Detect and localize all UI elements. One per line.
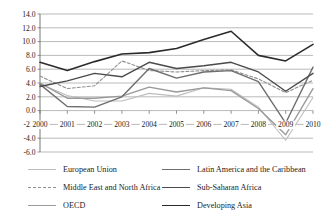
- legend-row: European Union Latin America and the Car…: [0, 160, 328, 178]
- y-tick-label: 12.0: [22, 24, 35, 33]
- legend-label: Sub-Saharan Africa: [197, 183, 261, 192]
- chart-legend: European Union Latin America and the Car…: [0, 160, 328, 218]
- x-tick-label: 2008: [251, 120, 266, 129]
- legend-item-sub-saharan-africa[interactable]: Sub-Saharan Africa: [160, 183, 328, 192]
- x-tick-label: 2004: [142, 120, 157, 129]
- legend-label: Developing Asia: [197, 201, 252, 210]
- legend-swatch-developing-asia: [162, 205, 190, 206]
- x-tick-label: 2007: [224, 120, 239, 129]
- plot-area: 14.012.010.08.06.04.02.00.0-2.0-4.0-6.0 …: [0, 0, 328, 160]
- legend-item-oecd[interactable]: OECD: [0, 201, 160, 210]
- legend-swatch-latin-america-and-the-caribbean: [162, 169, 190, 170]
- legend-label: OECD: [63, 201, 85, 210]
- y-tick-label: 10.0: [22, 37, 35, 46]
- y-tick-label: 2.0: [26, 93, 36, 102]
- x-tick-label: 2006: [196, 120, 211, 129]
- gridlines: [40, 14, 313, 152]
- x-tick-label: 2003: [114, 120, 129, 129]
- series-line-developing-asia: [40, 31, 313, 70]
- legend-swatch-sub-saharan-africa: [162, 187, 190, 188]
- legend-item-middle-east-and-north-africa[interactable]: Middle East and North Africa: [0, 183, 160, 192]
- x-tick-label: 2000: [32, 120, 47, 129]
- legend-row: Middle East and North Africa Sub-Saharan…: [0, 178, 328, 196]
- x-tick-label: 2005: [169, 120, 184, 129]
- x-axis-labels: 2000200120022003200420052006200720082009…: [31, 120, 323, 129]
- y-axis-labels: 14.012.010.08.06.04.02.00.0-2.0-4.0-6.0: [22, 10, 35, 157]
- legend-label: European Union: [63, 165, 117, 174]
- legend-item-latin-america-and-the-caribbean[interactable]: Latin America and the Caribbean: [160, 165, 328, 174]
- chart-figure: 14.012.010.08.06.04.02.00.0-2.0-4.0-6.0 …: [0, 0, 328, 218]
- legend-item-developing-asia[interactable]: Developing Asia: [160, 201, 328, 210]
- legend-row: OECD Developing Asia: [0, 196, 328, 214]
- x-axis-ticks: [40, 111, 313, 114]
- line-chart-svg: 14.012.010.08.06.04.02.00.0-2.0-4.0-6.0 …: [0, 0, 328, 160]
- y-tick-label: 4.0: [26, 79, 36, 88]
- x-tick-label: 2002: [87, 120, 102, 129]
- legend-label: Latin America and the Caribbean: [197, 165, 306, 174]
- legend-swatch-middle-east-and-north-africa: [28, 187, 56, 188]
- legend-swatch-oecd: [28, 205, 56, 206]
- legend-item-european-union[interactable]: European Union: [0, 165, 160, 174]
- y-tick-label: 6.0: [26, 65, 36, 74]
- x-tick-label: 2001: [60, 120, 75, 129]
- y-tick-label: -6.0: [23, 148, 35, 157]
- legend-label: Middle East and North Africa: [63, 183, 160, 192]
- y-tick-label: 8.0: [26, 51, 36, 60]
- legend-swatch-european-union: [28, 169, 56, 170]
- x-tick-label: 2010: [305, 120, 320, 129]
- x-tick-label: 2009: [278, 120, 293, 129]
- y-tick-label: 14.0: [22, 10, 35, 19]
- y-tick-label: 0.0: [26, 106, 36, 115]
- series-line-latin-america-and-the-caribbean: [40, 67, 313, 123]
- y-tick-label: -4.0: [23, 134, 35, 143]
